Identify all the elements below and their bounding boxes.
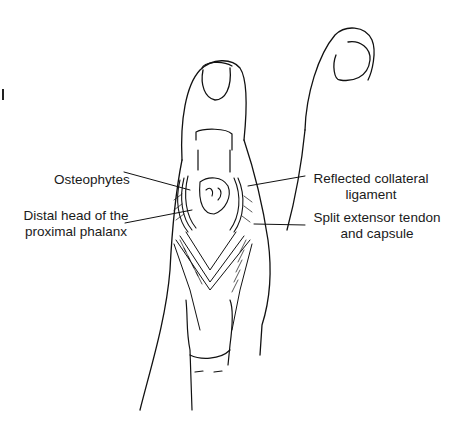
label-text: Osteophytes (54, 172, 130, 187)
split-tendon (174, 232, 252, 330)
leader-split-tendon (254, 224, 305, 225)
label-reflected-collateral-ligament: Reflected collateral ligament (306, 171, 436, 203)
label-split-extensor-tendon: Split extensor tendon and capsule (305, 210, 449, 242)
main-finger-outline (140, 61, 270, 410)
joint-exposure (178, 176, 243, 232)
label-text-line1: Distal head of the (20, 208, 132, 224)
label-text-line2: and capsule (305, 226, 449, 242)
label-text-line1: Split extensor tendon (305, 210, 449, 226)
label-text-line2: ligament (306, 187, 436, 203)
proximal-phalanx (186, 300, 232, 410)
label-distal-head: Distal head of the proximal phalanx (20, 208, 132, 240)
label-osteophytes: Osteophytes (54, 172, 130, 188)
middle-phalanx (196, 129, 232, 172)
illustration-canvas: Osteophytes Distal head of the proximal … (0, 0, 449, 439)
label-text-line1: Reflected collateral (306, 171, 436, 187)
leader-lines (124, 172, 305, 225)
label-text-line2: proximal phalanx (20, 224, 132, 240)
